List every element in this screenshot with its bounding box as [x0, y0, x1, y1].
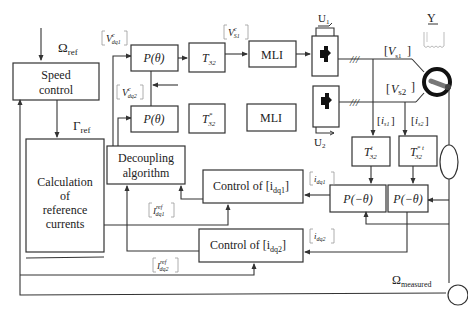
i-dq2-label: idq2 [310, 229, 334, 243]
dec-to-ptheta2 [118, 118, 131, 146]
svg-text:is2: is2 [415, 114, 423, 127]
svg-text:is1: is1 [381, 114, 389, 127]
three-phase-1: /// [349, 53, 360, 65]
svg-text:idq1: idq1 [314, 174, 326, 185]
speed-sensor [448, 285, 468, 305]
i-dq1-ref-label: Irefdq1 [149, 203, 174, 217]
svg-text:]: ] [391, 114, 395, 126]
control2-to-decoupling [127, 186, 199, 251]
p-minus-theta-1-label: P(−θ) [342, 192, 372, 206]
i-dq1-label: idq1 [310, 172, 334, 185]
three-phase-2: /// [349, 96, 360, 108]
svg-text:Vs1: Vs1 [388, 44, 402, 60]
u1-label: U1 [318, 12, 330, 26]
v-dq2-label: Vcdq2 [117, 85, 143, 99]
mli-2-label: MLI [260, 111, 282, 125]
svg-text:]: ] [411, 80, 415, 94]
calc-line4: currents [46, 217, 85, 231]
idq1-ref-line [104, 205, 228, 225]
v-s2-label: Vs2 [ ] [386, 80, 415, 97]
inverter-1 [312, 23, 338, 76]
v-s1-ref-label: VcS1 [224, 25, 248, 39]
inner-loop [26, 257, 104, 258]
svg-text:Vs2: Vs2 [391, 82, 406, 97]
vs2-to-motor [416, 93, 424, 102]
calc-line3: reference [43, 203, 88, 217]
decoupling-line2: algorithm [123, 166, 170, 180]
svg-text:[: [ [386, 82, 390, 96]
position-sensor [440, 145, 458, 179]
svg-text:VcS1: VcS1 [228, 26, 240, 39]
p-minus-theta-2-label: P(−θ) [392, 192, 422, 206]
v-s1-label: Vs1 [ ] [384, 44, 411, 60]
svg-text:]: ] [425, 114, 429, 126]
idq2-feedback [305, 212, 407, 252]
svg-text:[: [ [384, 44, 388, 58]
u2-label: U2 [314, 136, 326, 150]
y-label: Y [427, 11, 436, 25]
p-theta-2-label: P(θ) [142, 112, 164, 126]
decoupling-line1: Decoupling [118, 151, 174, 165]
svg-text:]: ] [407, 44, 411, 58]
speed-control-line2: control [39, 83, 74, 97]
calc-line2: of [60, 189, 70, 203]
p-theta-1-label: P(θ) [142, 51, 164, 65]
v-dq1-label: Vcdq1 [102, 31, 127, 45]
dec-to-ptheta1 [113, 56, 131, 146]
svg-text:Vcdq1: Vcdq1 [106, 32, 121, 45]
speed-ref-label: Ωref [58, 40, 78, 57]
idq2-ref-line [20, 264, 254, 275]
mli-1-label: MLI [261, 48, 283, 62]
svg-text:Irefdq2: Irefdq2 [156, 259, 168, 272]
speed-measured-label: Ωmeasured [392, 273, 432, 289]
block-diagram: Ωref Speed control Γref Calculation of r… [0, 0, 468, 316]
i-dq2-ref-label: Irefdq2 [153, 258, 178, 272]
motor-icon [424, 69, 451, 95]
calc-line1: Calculation [37, 175, 92, 189]
torque-ref-label: Γref [73, 118, 91, 135]
speed-control-line1: Speed [41, 68, 70, 82]
control1-to-decoupling [181, 186, 203, 199]
vs1-to-motor [412, 59, 424, 72]
svg-text:Vcdq2: Vcdq2 [122, 86, 137, 99]
svg-text:Irefdq1: Irefdq1 [152, 204, 164, 217]
i-s1-label: [ is1 ] [377, 114, 395, 127]
i-s2-label: [ is2 ] [411, 114, 429, 127]
inverter-2 [313, 86, 339, 135]
svg-text:idq2: idq2 [314, 231, 326, 242]
y-winding-icon [424, 32, 444, 48]
